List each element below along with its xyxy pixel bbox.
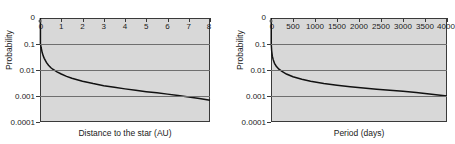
- x-axis-title-left: Distance to the star (AU): [40, 128, 210, 138]
- x-tick-label: 500: [286, 22, 299, 31]
- chart-panel-distance: Probability 0 0.10.010.0010.000101234567…: [0, 0, 226, 144]
- x-tick-label: 0: [39, 22, 43, 31]
- x-tick-label: 4: [123, 22, 127, 31]
- x-tick-label: 3: [102, 22, 106, 31]
- x-tick-label: 2000: [350, 22, 368, 31]
- x-tick-label: 6: [165, 22, 169, 31]
- gridline-y: [40, 70, 210, 71]
- x-axis-title-right: Period (days): [271, 128, 447, 138]
- x-tick-label: 8: [207, 22, 211, 31]
- x-tick-label: 1: [59, 22, 63, 31]
- gridline-y: [40, 44, 210, 45]
- y-tick-label: 0.0001: [11, 118, 35, 127]
- y-axis-corner-label-right: 0: [262, 13, 266, 22]
- x-tick-label: 3500: [416, 22, 434, 31]
- y-tick: [36, 70, 40, 71]
- gridline-y: [271, 70, 447, 71]
- y-tick-label: 0.01: [19, 66, 35, 75]
- y-tick-label: 0.01: [250, 66, 266, 75]
- y-tick: [36, 96, 40, 97]
- y-tick-label: 0.1: [24, 40, 35, 49]
- gridline-y: [40, 96, 210, 97]
- y-axis-title-left: Probability: [4, 30, 14, 70]
- y-tick: [267, 70, 271, 71]
- x-tick-label: 2: [80, 22, 84, 31]
- x-tick-label: 4000: [437, 22, 455, 31]
- curve-origin-marker: [270, 20, 273, 23]
- y-tick-label: 0.1: [255, 40, 266, 49]
- plot-area-distance: 0 0.10.010.0010.0001012345678: [40, 18, 210, 122]
- y-tick-label: 0.001: [246, 92, 266, 101]
- y-tick: [267, 122, 271, 123]
- y-axis-corner-label-left: 0: [31, 13, 35, 22]
- y-tick: [36, 122, 40, 123]
- x-tick-label: 2500: [372, 22, 390, 31]
- x-tick-label: 7: [187, 22, 191, 31]
- y-tick: [267, 44, 271, 45]
- y-tick: [36, 44, 40, 45]
- plot-area-period: 0 0.10.010.0010.000105001000150020002500…: [271, 18, 447, 122]
- x-tick-label: 5: [144, 22, 148, 31]
- y-tick: [267, 96, 271, 97]
- x-tick-label: 0: [270, 22, 274, 31]
- chart-panel-period: Probability 0 0.10.010.0010.000105001000…: [227, 0, 453, 144]
- gridline-y: [271, 44, 447, 45]
- x-tick-label: 1000: [306, 22, 324, 31]
- gridline-y: [271, 96, 447, 97]
- y-tick-label: 0.001: [15, 92, 35, 101]
- curve-origin-marker: [39, 20, 42, 23]
- y-tick-label: 0.0001: [242, 118, 266, 127]
- x-tick-label: 3000: [394, 22, 412, 31]
- y-axis-title-right: Probability: [235, 30, 245, 70]
- x-tick-label: 1500: [328, 22, 346, 31]
